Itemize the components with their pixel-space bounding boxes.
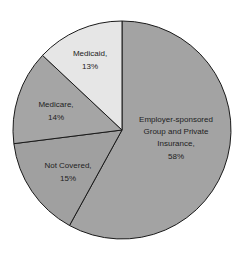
pie-chart: Employer-sponsored Group and Private Ins… <box>0 0 242 256</box>
label-employer-line3: Insurance, <box>157 139 194 148</box>
label-employer-value: 58% <box>168 152 184 161</box>
label-not-covered-line1: Not Covered, <box>44 161 91 170</box>
label-medicaid-line1: Medicaid, <box>73 49 107 58</box>
label-not-covered-value: 15% <box>60 174 76 183</box>
label-medicare-value: 14% <box>48 113 64 122</box>
label-employer-line1: Employer-sponsored <box>139 115 213 124</box>
label-medicaid-value: 13% <box>82 62 98 71</box>
label-medicare-line1: Medicare, <box>38 100 73 109</box>
label-employer-line2: Group and Private <box>144 127 209 136</box>
